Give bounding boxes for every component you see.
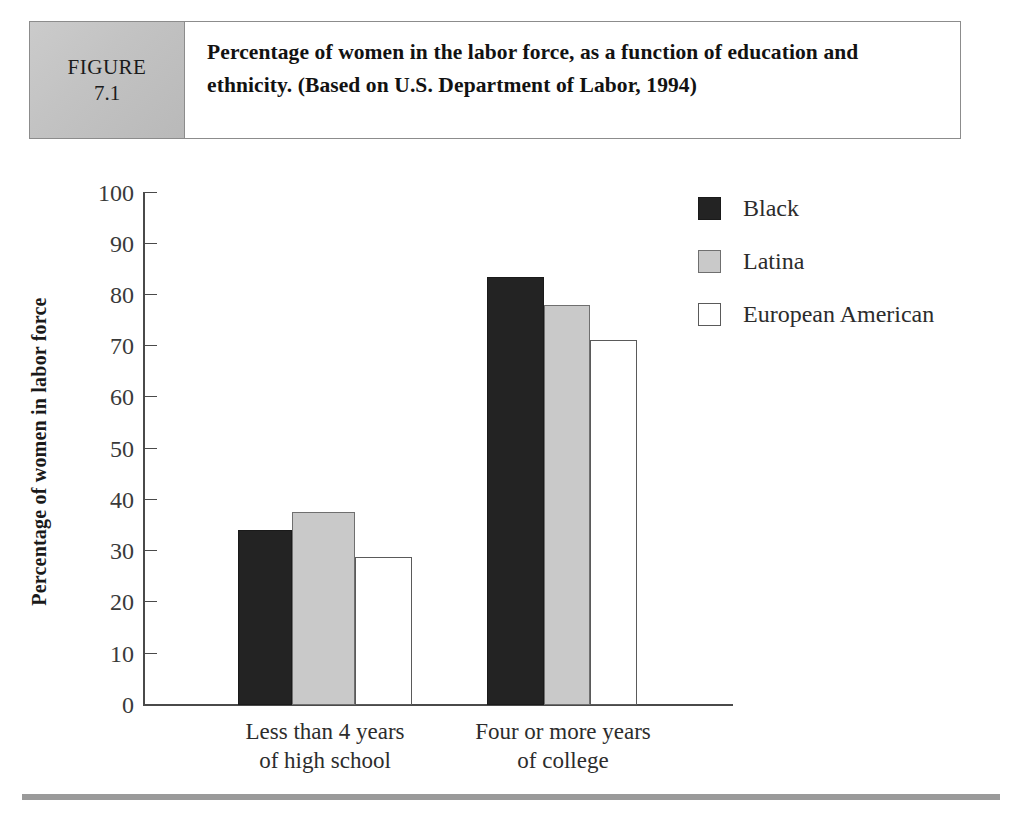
bar-european-american-less-than-4-years xyxy=(355,557,412,705)
y-tick-50 xyxy=(145,448,157,449)
legend-label-latina: Latina xyxy=(743,248,804,275)
y-axis-line xyxy=(143,192,145,706)
y-tick-60 xyxy=(145,396,157,397)
bar-latina-less-than-4-years xyxy=(292,512,355,705)
legend-label-black: Black xyxy=(743,195,799,222)
y-tick-label-40-wrap: 40 xyxy=(80,499,134,500)
x-label-group-1: Less than 4 years of high school xyxy=(205,718,445,776)
y-tick-label-10-wrap: 10 xyxy=(80,653,134,654)
y-tick-label-50-wrap: 50 xyxy=(80,448,134,449)
figure-badge-word: FIGURE xyxy=(68,54,147,80)
chart-legend: Black Latina European American xyxy=(698,182,978,341)
y-tick-label-0-wrap: 0 xyxy=(80,704,134,705)
x-label-group-2-line2: of college xyxy=(443,747,683,776)
legend-item-black: Black xyxy=(698,182,978,235)
y-tick-label-70-wrap: 70 xyxy=(80,345,134,346)
y-tick-80 xyxy=(145,294,157,295)
y-tick-label-20: 20 xyxy=(110,589,134,616)
y-tick-label-90: 90 xyxy=(110,231,134,258)
legend-swatch-european-american-icon xyxy=(698,303,721,326)
y-tick-100 xyxy=(145,192,157,193)
bar-black-less-than-4-years xyxy=(238,530,292,705)
x-label-group-1-line2: of high school xyxy=(205,747,445,776)
figure-caption: Percentage of women in the labor force, … xyxy=(185,22,960,138)
bar-black-four-or-more-years xyxy=(487,277,544,705)
legend-item-latina: Latina xyxy=(698,235,978,288)
y-axis-title: Percentage of women in labor force xyxy=(28,287,51,617)
x-label-group-1-line1: Less than 4 years xyxy=(205,718,445,747)
y-tick-label-60-wrap: 60 xyxy=(80,396,134,397)
x-label-group-2: Four or more years of college xyxy=(443,718,683,776)
x-axis-line xyxy=(143,704,733,706)
y-tick-label-0: 0 xyxy=(122,692,134,719)
figure-number-badge: FIGURE 7.1 xyxy=(30,22,185,138)
y-tick-label-80: 80 xyxy=(110,282,134,309)
bottom-divider-rule xyxy=(22,794,1000,800)
y-tick-label-50: 50 xyxy=(110,436,134,463)
y-tick-30 xyxy=(145,550,157,551)
figure-badge-number: 7.1 xyxy=(94,80,120,106)
legend-label-european-american: European American xyxy=(743,301,934,328)
legend-item-european-american: European American xyxy=(698,288,978,341)
y-tick-40 xyxy=(145,499,157,500)
y-tick-label-20-wrap: 20 xyxy=(80,601,134,602)
y-tick-10 xyxy=(145,653,157,654)
y-tick-label-40: 40 xyxy=(110,487,134,514)
y-tick-label-90-wrap: 90 xyxy=(80,243,134,244)
legend-swatch-latina-icon xyxy=(698,250,721,273)
y-tick-70 xyxy=(145,345,157,346)
legend-swatch-black-icon xyxy=(698,197,721,220)
y-tick-label-10: 10 xyxy=(110,641,134,668)
y-tick-label-100: 100 xyxy=(98,180,134,207)
y-tick-20 xyxy=(145,601,157,602)
bar-european-american-four-or-more-years xyxy=(590,340,637,705)
y-tick-label-100-wrap: 100 xyxy=(80,192,134,193)
figure-header: FIGURE 7.1 Percentage of women in the la… xyxy=(29,21,961,139)
y-tick-90 xyxy=(145,243,157,244)
bar-latina-four-or-more-years xyxy=(544,305,590,705)
y-tick-label-60: 60 xyxy=(110,384,134,411)
y-tick-label-30-wrap: 30 xyxy=(80,550,134,551)
y-tick-label-70: 70 xyxy=(110,333,134,360)
y-tick-label-30: 30 xyxy=(110,538,134,565)
bar-chart: Percentage of women in labor force 100 9… xyxy=(0,150,1012,770)
y-tick-label-80-wrap: 80 xyxy=(80,294,134,295)
x-label-group-2-line1: Four or more years xyxy=(443,718,683,747)
